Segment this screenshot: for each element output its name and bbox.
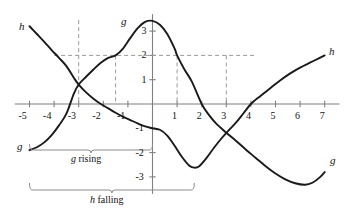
- bracket-h-falling: [30, 183, 195, 193]
- curve-label-h-left: h: [19, 21, 25, 32]
- curve-label-g-left: g: [17, 141, 23, 152]
- x-tick-label-5: 5: [271, 111, 276, 121]
- y-tick-label-1: 1: [142, 75, 147, 85]
- y-tick-label-neg1: -1: [136, 123, 144, 133]
- curve-label-g-right: g: [330, 155, 336, 166]
- y-tick-label-3: 3: [142, 26, 147, 36]
- bracket-label-h-falling: h falling: [90, 195, 124, 205]
- x-tick-label-1: 1: [172, 111, 177, 121]
- x-tick-label-neg1: -1: [117, 111, 125, 121]
- x-tick-label-3: 3: [221, 111, 226, 121]
- bracket-label-g-rising: g rising: [71, 154, 101, 164]
- curve-label-g-top: g: [121, 16, 127, 27]
- y-tick-label-2: 2: [142, 50, 147, 60]
- y-tick-label-neg2: -2: [136, 148, 144, 158]
- x-tick-label-4: 4: [246, 111, 251, 121]
- curve-label-h-right: h: [329, 46, 335, 57]
- x-tick-label-7: 7: [320, 111, 325, 121]
- x-tick-label-neg5: -5: [19, 111, 27, 121]
- x-tick-label-neg3: -3: [68, 111, 76, 121]
- bracket-g-rising: [30, 144, 153, 153]
- x-tick-label-2: 2: [197, 111, 202, 121]
- graph-figure: -5-4-3-2-11234567321-1-2-3hghggg risingh…: [0, 0, 353, 217]
- x-tick-label-6: 6: [295, 111, 300, 121]
- y-tick-label-neg3: -3: [136, 172, 144, 182]
- curve-h: [30, 26, 325, 167]
- x-tick-label-neg2: -2: [92, 111, 100, 121]
- plot-canvas: [0, 0, 353, 217]
- x-tick-label-neg4: -4: [43, 111, 51, 121]
